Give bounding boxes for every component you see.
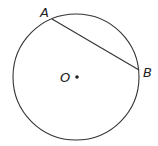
- label-b: B: [143, 65, 152, 80]
- circle-diagram: A B O: [0, 0, 158, 146]
- label-a: A: [39, 5, 49, 20]
- label-o: O: [60, 70, 70, 85]
- chord-ab: [52, 19, 139, 70]
- center-point: [75, 75, 79, 79]
